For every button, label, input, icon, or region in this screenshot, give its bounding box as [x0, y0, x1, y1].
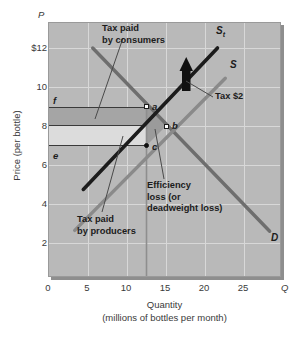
y-tick-6: 6	[42, 159, 47, 170]
point-f-label: f	[53, 95, 56, 106]
leader-consumers	[95, 38, 123, 119]
x-axis-title-main: Quantity	[48, 298, 281, 311]
y-tick-2: 2	[42, 237, 47, 248]
x-tick-0: 0	[38, 282, 58, 293]
x-tick-20: 20	[194, 282, 214, 293]
producers-line-1: Tax paid	[77, 214, 136, 226]
leader-efficiency-loss	[155, 129, 164, 179]
producers-line-2: by producers	[77, 226, 136, 238]
demand-label: D	[271, 232, 278, 243]
point-c-label: c	[152, 141, 157, 152]
y-axis-symbol: P	[38, 9, 44, 20]
x-tick-25: 25	[233, 282, 253, 293]
x-axis-symbol: Q	[281, 282, 288, 293]
effloss-line-3: deadweight loss)	[147, 203, 222, 215]
point-a-label: a	[152, 101, 157, 112]
point-a-marker	[144, 104, 149, 109]
tax-amount-annotation: Tax $2	[215, 91, 243, 103]
supply-with-tax-curve	[83, 48, 217, 189]
efficiency-loss-annotation: Efficiency loss (or deadweight loss)	[147, 180, 222, 215]
point-b-marker	[164, 124, 169, 129]
x-tick-10: 10	[116, 282, 136, 293]
consumers-line-2: by consumers	[102, 35, 165, 47]
supply-with-tax-label-text: S	[216, 25, 223, 36]
y-tick-10: 10	[36, 81, 47, 92]
supply-demand-tax-figure: P Q $12 10 8 6 4 2 0 5 10 15 20 25 Price…	[0, 0, 298, 338]
y-axis-title: Price (per bottle)	[11, 76, 22, 216]
effloss-line-2: loss (or	[147, 192, 222, 204]
y-tick-12: $12	[31, 42, 47, 53]
tax-paid-by-consumers-annotation: Tax paid by consumers	[102, 23, 165, 46]
x-axis-title: Quantity (millions of bottles per month)	[48, 298, 281, 324]
effloss-line-1: Efficiency	[147, 180, 222, 192]
y-tick-4: 4	[42, 198, 47, 209]
consumers-line-1: Tax paid	[102, 23, 165, 35]
y-tick-8: 8	[42, 120, 47, 131]
supply-label: S	[230, 59, 237, 70]
tax-paid-by-producers-annotation: Tax paid by producers	[77, 214, 136, 237]
supply-with-tax-label: St	[216, 25, 225, 38]
supply-with-tax-label-subscript: t	[223, 31, 225, 38]
leader-producers	[102, 136, 123, 212]
point-c-marker	[144, 143, 149, 148]
curves-layer	[49, 23, 281, 277]
point-b-label: b	[172, 120, 178, 131]
plot-area: a b c f e St S D Tax paid by consumers T…	[48, 22, 281, 277]
x-tick-15: 15	[155, 282, 175, 293]
point-e-label: e	[53, 150, 58, 161]
x-axis-title-sub: (millions of bottles per month)	[48, 311, 281, 324]
x-tick-5: 5	[77, 282, 97, 293]
